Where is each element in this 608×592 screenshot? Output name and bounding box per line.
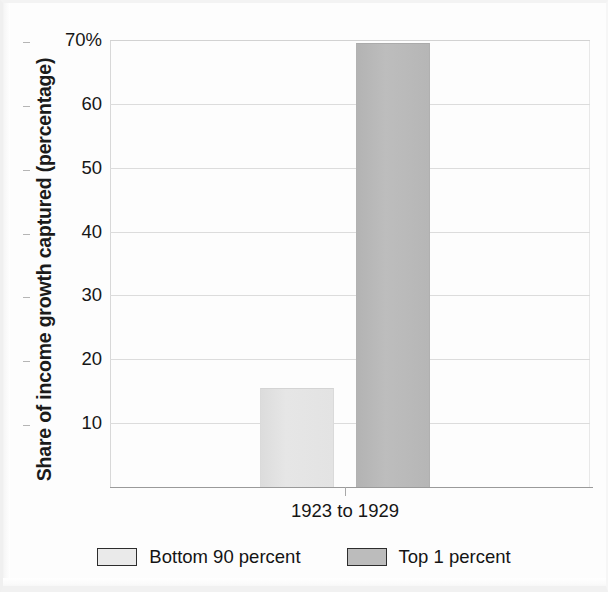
y-axis-tick-label: 20 — [30, 348, 102, 370]
y-axis-tick-label: 40 — [30, 221, 102, 243]
gridline — [110, 359, 590, 360]
y-axis-tick-mark — [23, 42, 30, 43]
plot-area — [110, 40, 590, 487]
bar-chart-figure: Share of income growth captured (percent… — [0, 0, 608, 592]
legend-swatch-icon-light — [97, 548, 137, 566]
chart-legend: Bottom 90 percent Top 1 percent — [0, 546, 608, 568]
y-axis-tick-mark — [23, 170, 30, 171]
plot-left-spine — [110, 40, 111, 487]
legend-item-bottom-90-percent[interactable]: Bottom 90 percent — [97, 546, 300, 568]
y-axis-tick-mark — [23, 425, 30, 426]
gridline — [110, 40, 590, 41]
legend-swatch-icon-dark — [347, 548, 387, 566]
y-axis-tick-mark — [23, 297, 30, 298]
legend-label-bottom-90-percent: Bottom 90 percent — [149, 546, 300, 568]
plot-right-spine — [589, 40, 590, 487]
x-axis-baseline — [110, 487, 593, 488]
gridline — [110, 295, 590, 296]
y-axis-tick-label: 10 — [30, 412, 102, 434]
gridline — [110, 423, 590, 424]
y-axis-tick-mark — [23, 106, 30, 107]
x-axis-tick-mark — [345, 487, 346, 496]
scan-artifact-band — [4, 581, 602, 590]
y-axis-tick-label: 70% — [30, 29, 102, 51]
y-axis-tick-label: 60 — [30, 93, 102, 115]
bar-bottom-90-percent — [260, 388, 334, 487]
y-axis-tick-label: 50 — [30, 157, 102, 179]
y-axis-tick-label: 30 — [30, 284, 102, 306]
page-edge-shadow-left — [0, 0, 10, 592]
gridline — [110, 104, 590, 105]
bar-top-1-percent — [356, 43, 430, 487]
x-axis-tick-label: 1923 to 1929 — [225, 500, 465, 522]
gridline — [110, 168, 590, 169]
legend-item-top-1-percent[interactable]: Top 1 percent — [347, 546, 511, 568]
y-axis-tick-mark — [23, 361, 30, 362]
y-axis-tick-mark — [23, 234, 30, 235]
gridline — [110, 232, 590, 233]
page-edge-shadow-bottom — [0, 578, 608, 592]
legend-label-top-1-percent: Top 1 percent — [399, 546, 511, 568]
